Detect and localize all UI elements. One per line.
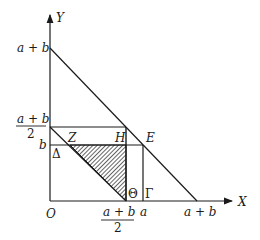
x-tick-a-plus-b: a + b (184, 205, 217, 219)
point-label-theta: Θ (128, 187, 138, 201)
x-tick-half-num: a + b (103, 205, 136, 219)
y-tick-half-num: a + b (17, 112, 50, 126)
diagram-canvas: Y X O a + b a + b 2 b a + b 2 a a + b Z … (0, 0, 260, 240)
y-tick-a-plus-b: a + b (17, 41, 50, 55)
x-axis-label: X (237, 195, 247, 209)
x-tick-half-den: 2 (114, 221, 122, 235)
point-label-e: E (145, 131, 155, 145)
point-label-h: H (114, 131, 126, 145)
y-axis-label: Y (56, 11, 65, 25)
point-label-gamma: Γ (145, 187, 153, 201)
origin-label: O (46, 207, 56, 221)
point-label-delta: Δ (52, 147, 61, 161)
point-label-z: Z (67, 131, 77, 145)
x-tick-a: a (140, 205, 147, 219)
y-tick-half-den: 2 (27, 127, 35, 141)
y-tick-b: b (39, 138, 47, 152)
